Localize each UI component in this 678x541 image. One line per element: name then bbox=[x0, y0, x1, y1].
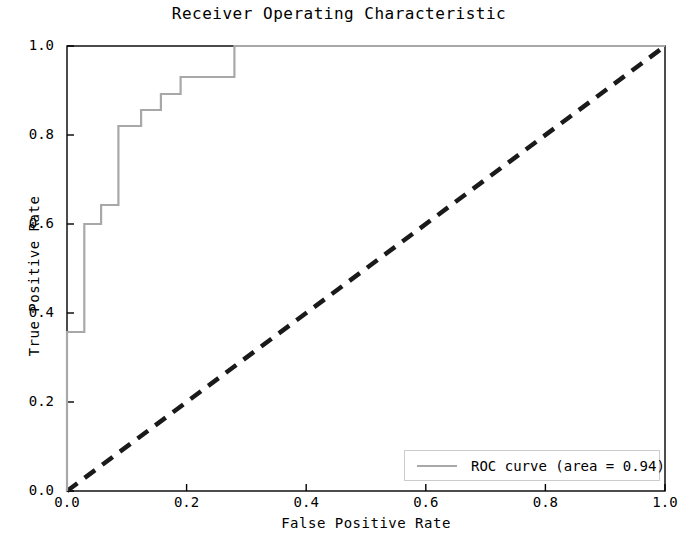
y-tick-label-5: 1.0 bbox=[2, 37, 54, 53]
chance-diagonal-line bbox=[67, 46, 665, 491]
legend-line-swatch-roc bbox=[417, 465, 457, 467]
roc-chart-figure: Receiver Operating Characteristic 0.0 bbox=[0, 0, 678, 541]
x-tick-label-3: 0.6 bbox=[402, 494, 450, 510]
x-tick-label-4: 0.8 bbox=[521, 494, 569, 510]
y-tick-label-4: 0.8 bbox=[2, 126, 54, 142]
y-axis-label: True Positive Rate bbox=[26, 146, 42, 406]
x-tick-label-5: 1.0 bbox=[641, 494, 678, 510]
x-axis-label: False Positive Rate bbox=[67, 515, 665, 531]
y-tick-label-0: 0.0 bbox=[2, 482, 54, 498]
x-tick-marks bbox=[67, 484, 665, 491]
chart-legend: ROC curve (area = 0.94) bbox=[404, 450, 660, 481]
x-tick-label-2: 0.4 bbox=[282, 494, 330, 510]
x-tick-label-1: 0.2 bbox=[163, 494, 211, 510]
legend-label-roc: ROC curve (area = 0.94) bbox=[471, 458, 665, 474]
